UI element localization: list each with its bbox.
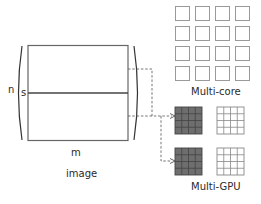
core-square (176, 27, 190, 41)
connector-upper (128, 69, 152, 116)
core-square (196, 7, 210, 21)
core-square (176, 47, 190, 61)
multigpu-grids (175, 107, 244, 175)
image-matrix (19, 46, 138, 141)
image-label: image (66, 169, 97, 179)
split-label: s (21, 88, 26, 98)
core-square (236, 47, 250, 61)
multigpu-label: Multi-GPU (191, 182, 241, 192)
multicore-grid (176, 7, 250, 81)
core-square (196, 27, 210, 41)
dashed-connectors (128, 69, 172, 161)
right-bracket (134, 46, 138, 140)
gpu-grid-active (175, 107, 202, 134)
core-square (236, 67, 250, 81)
gpu-grid-active (175, 148, 202, 175)
core-square (176, 7, 190, 21)
gpu-grid-idle (217, 107, 244, 134)
core-square (216, 47, 230, 61)
multicore-label: Multi-core (191, 87, 241, 97)
core-square (236, 7, 250, 21)
core-square (216, 27, 230, 41)
core-square (216, 7, 230, 21)
core-square (236, 27, 250, 41)
arrow-heads (170, 114, 175, 164)
connector-to-gpu2 (161, 116, 172, 161)
core-square (196, 47, 210, 61)
gpu-grid-idle (217, 148, 244, 175)
diagram-canvas (0, 0, 261, 204)
core-square (196, 67, 210, 81)
arrow-icon (170, 114, 175, 119)
rows-label: n (8, 85, 14, 95)
core-square (176, 67, 190, 81)
cols-label: m (71, 148, 81, 158)
arrow-icon (170, 159, 175, 164)
core-square (216, 67, 230, 81)
